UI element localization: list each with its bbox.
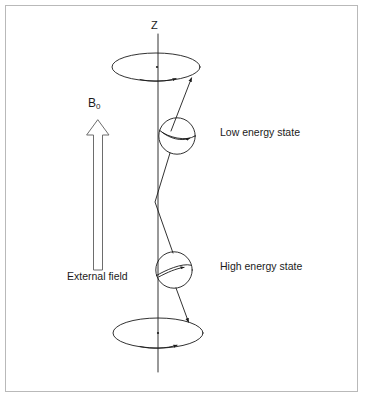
external-field-label: External field [67, 270, 128, 282]
lower-spin-vector [176, 288, 189, 322]
high-energy-state-label: High energy state [220, 260, 302, 272]
spin-precession-diagram [0, 0, 368, 402]
field-symbol-text: B [88, 96, 96, 110]
external-field-arrow [87, 120, 109, 270]
low-energy-spin-sphere [159, 118, 195, 154]
lower-ellipse-center-dot [157, 332, 159, 334]
low-energy-sphere-outline [159, 118, 195, 154]
field-strength-symbol: B0 [88, 96, 100, 110]
diagram-page: Z B0 External field Low energy state Hig… [0, 0, 368, 402]
field-symbol-subscript: 0 [96, 102, 100, 111]
z-axis-label: Z [151, 19, 158, 31]
upper-ellipse-center-dot [156, 66, 158, 68]
low-energy-state-label: Low energy state [220, 126, 300, 138]
high-energy-spin-sphere [156, 252, 192, 288]
upper-spin-vector [171, 78, 192, 131]
